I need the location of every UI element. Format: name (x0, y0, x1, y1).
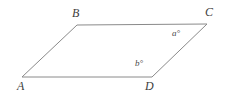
vertex-label-b: B (72, 7, 79, 19)
angle-label-a: a° (172, 29, 180, 38)
vertex-label-d: D (145, 80, 154, 92)
vertex-label-c: C (205, 6, 213, 18)
geometry-figure: A B C D a° b° (0, 0, 228, 98)
vertex-label-a: A (17, 80, 24, 92)
parallelogram-shape (0, 0, 228, 98)
angle-label-b: b° (135, 59, 143, 68)
